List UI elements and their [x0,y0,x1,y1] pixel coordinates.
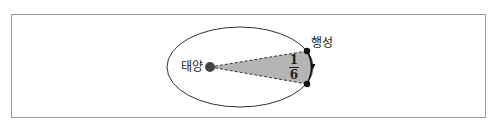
fraction-denominator: 6 [290,68,298,82]
sun-label: 태양 [181,60,203,74]
planet-position-end-icon [304,81,310,87]
planet-label: 행성 [311,35,333,50]
orbit-diagram: 태양 행성 1 6 [0,0,495,129]
planet-position-start-icon [304,48,310,54]
sun-icon [205,62,215,72]
fraction-numerator: 1 [290,53,298,67]
